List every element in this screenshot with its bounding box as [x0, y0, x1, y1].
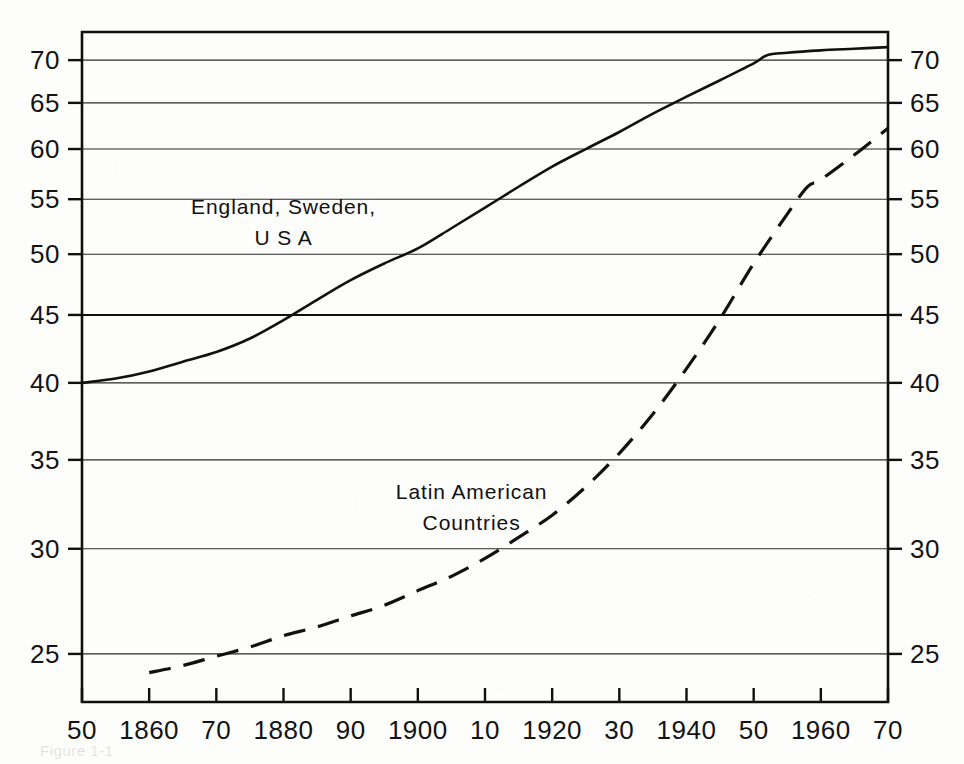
x-tick-label: 90	[336, 715, 366, 745]
x-tick-label: 10	[470, 715, 500, 745]
y-tick-label-left: 50	[30, 239, 60, 269]
x-axis-tick-labels: 50186070188090190010192030194050196070	[67, 715, 903, 745]
series-annotation-1-line-2: U S A	[254, 226, 312, 249]
figure-caption: Figure 1-1	[40, 742, 113, 759]
y-axis-tick-labels-right: 25303540455055606570	[910, 45, 940, 669]
x-tick-label: 1860	[119, 715, 179, 745]
x-tick-label: 50	[739, 715, 769, 745]
plot-frame	[82, 32, 888, 702]
x-tick-label: 70	[201, 715, 231, 745]
y-tick-label-left: 25	[30, 639, 60, 669]
x-tick-label: 1940	[657, 715, 717, 745]
series-annotation-1-line-1: England, Sweden,	[191, 195, 376, 218]
y-tick-label-right: 40	[910, 368, 940, 398]
y-tick-label-right: 25	[910, 639, 940, 669]
y-tick-label-left: 45	[30, 300, 60, 330]
x-tick-label: 1920	[522, 715, 582, 745]
y-tick-label-left: 70	[30, 45, 60, 75]
y-tick-label-right: 45	[910, 300, 940, 330]
data-series-layer	[82, 47, 888, 673]
series-annotation-2-line-2: Countries	[423, 511, 521, 534]
y-tick-label-right: 55	[910, 184, 940, 214]
y-tick-label-left: 60	[30, 134, 60, 164]
y-tick-label-right: 35	[910, 445, 940, 475]
chart-page: 25303540455055606570 2530354045505560657…	[0, 0, 964, 764]
x-tick-label: 50	[67, 715, 97, 745]
x-axis-ticks	[82, 688, 888, 702]
x-tick-label: 30	[604, 715, 634, 745]
series-annotations: England, Sweden,U S ALatin AmericanCount…	[191, 195, 547, 534]
life-expectancy-line-chart: 25303540455055606570 2530354045505560657…	[0, 0, 964, 764]
y-tick-label-left: 55	[30, 184, 60, 214]
y-tick-label-left: 40	[30, 368, 60, 398]
x-tick-label: 1960	[791, 715, 851, 745]
y-tick-label-right: 60	[910, 134, 940, 164]
y-tick-label-left: 30	[30, 534, 60, 564]
series-annotation-2-line-1: Latin American	[396, 480, 548, 503]
x-tick-label: 1900	[388, 715, 448, 745]
y-tick-label-left: 35	[30, 445, 60, 475]
y-tick-label-right: 30	[910, 534, 940, 564]
y-tick-label-right: 70	[910, 45, 940, 75]
x-tick-label: 70	[873, 715, 903, 745]
y-axis-tick-labels-left: 25303540455055606570	[30, 45, 60, 669]
y-tick-label-right: 50	[910, 239, 940, 269]
y-axis-ticks-left	[68, 60, 82, 654]
y-tick-label-left: 65	[30, 88, 60, 118]
y-tick-label-right: 65	[910, 88, 940, 118]
y-axis-ticks-right	[888, 60, 902, 654]
x-tick-label: 1880	[254, 715, 314, 745]
